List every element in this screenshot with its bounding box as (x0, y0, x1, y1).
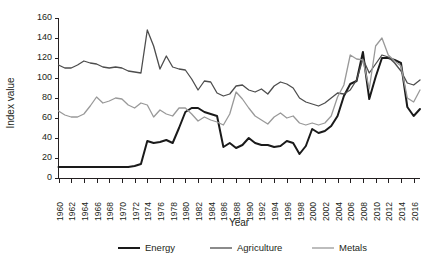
y-axis-tick-label: 20 (42, 152, 52, 162)
y-axis-tick-label: 0 (47, 172, 52, 182)
series-line-energy (59, 52, 421, 167)
x-axis-tick-label: 1980 (181, 202, 191, 221)
x-axis-tick-label: 1974 (143, 202, 153, 221)
x-axis-tick-label: 2012 (384, 202, 394, 221)
y-axis-title-group: Index value (5, 77, 16, 129)
x-axis-tick-label: 1996 (283, 202, 293, 221)
y-axis-tick-label: 80 (42, 92, 52, 102)
y-axis-title: Index value (5, 77, 16, 129)
x-axis-tick-label: 1966 (93, 202, 103, 221)
series-line-metals (59, 38, 421, 125)
x-axis-tick-label: 1968 (105, 202, 115, 221)
x-axis-tick-label: 1960 (55, 202, 65, 221)
chart-legend: EnergyAgricultureMetals (118, 242, 367, 253)
data-series-group (59, 30, 421, 167)
x-axis-tick-label: 1998 (296, 202, 306, 221)
x-axis-tick-label: 2004 (334, 202, 344, 221)
y-axis-tick-labels: 020406080100120140160 (37, 12, 52, 182)
y-axis-tick-label: 100 (37, 72, 52, 82)
x-axis-tick-label: 2016 (410, 202, 420, 221)
x-axis-tick-label: 1964 (80, 202, 90, 221)
legend-label-metals: Metals (339, 242, 367, 253)
y-axis-tick-label: 120 (37, 52, 52, 62)
x-axis-tick-marks (60, 179, 415, 184)
y-axis-tick-marks (55, 19, 59, 179)
x-axis-tick-label: 2002 (321, 202, 331, 221)
x-axis-tick-label: 1982 (194, 202, 204, 221)
legend-label-energy: Energy (145, 242, 175, 253)
x-axis-tick-label: 1994 (270, 202, 280, 221)
x-axis-tick-label: 1984 (207, 202, 217, 221)
y-axis-tick-label: 160 (37, 12, 52, 22)
x-axis-tick-label: 1972 (131, 202, 141, 221)
x-axis-tick-label: 2000 (308, 202, 318, 221)
x-axis-tick-label: 1962 (67, 202, 77, 221)
y-axis-tick-label: 60 (42, 112, 52, 122)
x-axis-tick-label: 1986 (219, 202, 229, 221)
x-axis-tick-label: 1992 (257, 202, 267, 221)
x-axis-tick-label: 1978 (169, 202, 179, 221)
x-axis-tick-label: 2008 (359, 202, 369, 221)
x-axis-tick-label: 2010 (372, 202, 382, 221)
x-axis-tick-label: 2006 (346, 202, 356, 221)
legend-label-agriculture: Agriculture (237, 242, 282, 253)
chart-container: Index value 020406080100120140160 196019… (0, 0, 428, 269)
x-axis-tick-label: 2014 (397, 202, 407, 221)
line-chart: Index value 020406080100120140160 196019… (0, 0, 428, 269)
x-axis-tick-label: 1970 (118, 202, 128, 221)
y-axis-tick-label: 40 (42, 132, 52, 142)
x-axis-title: Year (229, 217, 250, 228)
y-axis-tick-label: 140 (37, 32, 52, 42)
x-axis-tick-label: 1976 (156, 202, 166, 221)
